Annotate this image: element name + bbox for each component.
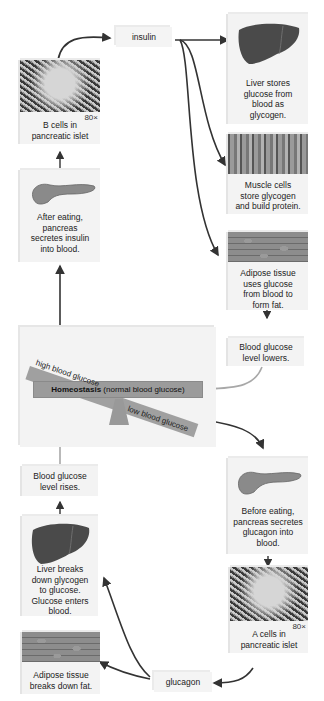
text-line: Liver breaks	[22, 564, 98, 575]
text-line: down glycogen	[22, 575, 98, 586]
text-line: to glucose.	[22, 585, 98, 596]
text-line: Glucose enters	[22, 596, 98, 607]
text-line: Blood glucose	[22, 471, 98, 482]
liver-stores-box: Liver stores glucose from blood as glyco…	[228, 14, 308, 124]
adipose-uses-box: Adipose tissue uses glucose from blood t…	[228, 232, 308, 310]
pancreas-before-eating-box: Before eating, pancreas secretes glucago…	[228, 458, 308, 554]
text-line: After eating,	[20, 212, 100, 223]
text-line: glucose from	[228, 89, 308, 100]
text-line: glucagon into	[228, 527, 308, 538]
text-line: Blood glucose	[228, 342, 304, 353]
glucose-rises-box: Blood glucose level rises.	[22, 466, 98, 496]
text-line: breaks down fat.	[22, 681, 100, 692]
homeostasis-rest: (normal blood glucose)	[101, 385, 185, 394]
b-cells-box: 80× B cells in pancreatic islet	[20, 60, 100, 144]
pancreas-icon	[234, 464, 304, 498]
muscle-cells-box: Muscle cells store glycogen and build pr…	[228, 134, 308, 214]
liver-icon	[233, 20, 303, 68]
liver-icon	[27, 520, 93, 566]
text-line: and build protein.	[228, 201, 308, 212]
text-line: level lowers.	[228, 353, 304, 364]
text-line: pancreas	[20, 223, 100, 234]
insulin-text: insulin	[132, 32, 156, 42]
text-line: into blood.	[20, 244, 100, 255]
pancreas-after-eating-box: After eating, pancreas secretes insulin …	[20, 170, 100, 262]
text-line: glycogen.	[228, 110, 308, 121]
muscle-micrograph	[228, 134, 308, 174]
adipose-micrograph	[228, 232, 308, 262]
text-line: from blood to	[228, 289, 308, 300]
text-line: uses glucose	[228, 279, 308, 290]
text-line: blood as	[228, 99, 308, 110]
text-line: store glycogen	[228, 191, 308, 202]
text-line: pancreas secretes	[228, 517, 308, 528]
text-line: level rises.	[22, 482, 98, 493]
glucose-lowers-box: Blood glucose level lowers.	[228, 338, 304, 366]
liver-breaks-box: Liver breaks down glycogen to glucose. G…	[22, 516, 98, 616]
text-line: form fat.	[228, 300, 308, 311]
text-line: Adipose tissue	[22, 670, 100, 681]
glucagon-text: glucagon	[166, 677, 201, 687]
text-line: Before eating,	[228, 506, 308, 517]
a-cells-box: 80× A cells in pancreatic islet	[230, 567, 308, 653]
homeostasis-bar: Homeostasis (normal blood glucose)	[33, 381, 203, 398]
fulcrum-icon	[105, 397, 135, 427]
pancreas-icon	[28, 176, 98, 206]
insulin-label: insulin	[116, 27, 172, 47]
glucagon-label: glucagon	[154, 672, 212, 692]
a-cells-line1: A cells in	[230, 629, 308, 640]
text-line: blood.	[228, 538, 308, 549]
text-line: Liver stores	[228, 78, 308, 89]
b-cells-line2: pancreatic islet	[20, 131, 100, 142]
b-cells-line1: B cells in	[20, 120, 100, 131]
b-cells-micrograph: 80×	[20, 60, 100, 112]
a-cells-micrograph: 80×	[230, 567, 308, 621]
text-line: Muscle cells	[228, 180, 308, 191]
text-line: secretes insulin	[20, 233, 100, 244]
adipose-breaks-box: Adipose tissue breaks down fat.	[22, 632, 100, 694]
adipose-micrograph	[22, 632, 100, 662]
a-cells-line2: pancreatic islet	[230, 640, 308, 651]
text-line: blood.	[22, 606, 98, 617]
text-line: Adipose tissue	[228, 268, 308, 279]
